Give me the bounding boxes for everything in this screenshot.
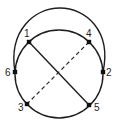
node-5 <box>87 103 91 107</box>
node-label-4: 4 <box>86 28 92 39</box>
node-label-5: 5 <box>94 102 100 113</box>
node-label-2: 2 <box>106 67 112 78</box>
node-label-3: 3 <box>18 102 24 113</box>
node-label-1: 1 <box>24 28 30 39</box>
node-label-6: 6 <box>5 67 11 78</box>
node-4 <box>87 40 91 44</box>
node-2 <box>101 70 105 74</box>
graph-diagram: 146235 <box>0 0 119 124</box>
node-6 <box>13 70 17 74</box>
chord-1-5 <box>29 42 89 105</box>
node-1 <box>27 40 31 44</box>
nodes: 146235 <box>5 28 112 113</box>
node-3 <box>25 102 29 106</box>
